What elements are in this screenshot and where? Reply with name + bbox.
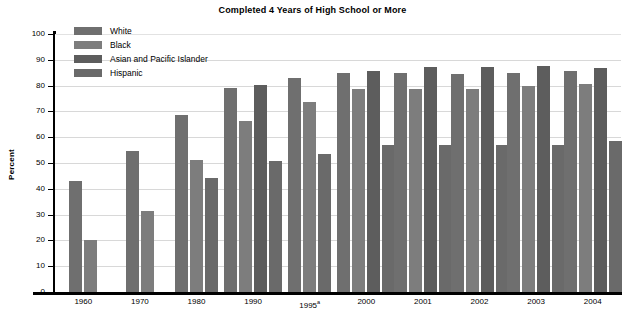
x-tick-label: 2002 (450, 296, 510, 308)
y-tick-label: 90 (36, 56, 45, 64)
bar (579, 84, 592, 292)
y-tick-label: 40 (36, 185, 45, 193)
y-tick-mark (48, 60, 53, 61)
legend-item-white[interactable]: White (74, 24, 304, 38)
y-tick-mark (48, 34, 53, 35)
legend-item-api[interactable]: Asian and Pacific Islander (74, 52, 304, 66)
bar (224, 88, 237, 292)
legend-item-label: White (110, 27, 132, 36)
y-tick-label: 80 (36, 82, 45, 90)
bar (254, 85, 267, 292)
legend-item-black[interactable]: Black (74, 38, 304, 52)
x-tick-label: 2000 (336, 296, 396, 308)
bar (141, 211, 154, 292)
x-tick-label: 1970 (110, 296, 170, 308)
legend-swatch-icon (74, 41, 102, 49)
y-tick-label: 60 (36, 133, 45, 141)
y-tick-mark (48, 189, 53, 190)
bar (303, 102, 316, 292)
bar (84, 240, 97, 292)
bar (481, 67, 494, 292)
legend-item-label: Hispanic (110, 69, 143, 78)
x-axis-line (33, 292, 622, 295)
x-tick-label: 2003 (506, 296, 566, 308)
bar (367, 71, 380, 292)
y-tick-label: 50 (36, 159, 45, 167)
y-tick-mark (48, 215, 53, 216)
x-axis-tick-labels: 19601970198019901995a2000200120022003200… (0, 296, 625, 313)
legend-item-label: Black (110, 41, 131, 50)
bar (466, 89, 479, 292)
bar (594, 68, 607, 292)
bar (564, 71, 577, 292)
y-tick-mark (48, 240, 53, 241)
bar (352, 89, 365, 292)
chart-legend: WhiteBlackAsian and Pacific IslanderHisp… (74, 24, 304, 80)
bar (451, 74, 464, 292)
bar (507, 73, 520, 292)
legend-swatch-icon (74, 27, 102, 35)
y-tick-mark (48, 292, 53, 293)
bar (190, 160, 203, 292)
bar (394, 73, 407, 292)
legend-item-hispanic[interactable]: Hispanic (74, 66, 304, 80)
x-tick-label: 1990 (223, 296, 283, 308)
bar (175, 115, 188, 293)
legend-swatch-icon (74, 55, 102, 63)
x-tick-label: 2004 (563, 296, 623, 308)
x-tick-label: 1980 (167, 296, 227, 308)
bar (239, 121, 252, 292)
chart-container: Completed 4 Years of High School or More… (0, 0, 625, 313)
bar (424, 67, 437, 292)
y-tick-label: 100 (32, 30, 45, 38)
x-tick-label: 2001 (393, 296, 453, 308)
bar (126, 151, 139, 292)
y-tick-label: 30 (36, 211, 45, 219)
y-tick-mark (48, 137, 53, 138)
bar (288, 78, 301, 292)
bar (318, 154, 331, 292)
footnote-marker: a (317, 299, 320, 305)
x-tick-label: 1995a (280, 296, 340, 312)
bar (409, 89, 422, 292)
bar (522, 86, 535, 292)
y-tick-label: 20 (36, 236, 45, 244)
y-tick-mark (48, 86, 53, 87)
bar (609, 141, 622, 292)
bar (269, 161, 282, 292)
bar (205, 178, 218, 292)
chart-title: Completed 4 Years of High School or More (0, 5, 625, 15)
legend-swatch-icon (74, 69, 102, 77)
x-tick-label: 1960 (53, 296, 113, 308)
bar (69, 181, 82, 292)
bar (537, 66, 550, 292)
y-tick-label: 0 (41, 288, 45, 296)
y-tick-mark (48, 111, 53, 112)
y-tick-mark (48, 266, 53, 267)
legend-item-label: Asian and Pacific Islander (110, 55, 208, 64)
y-tick-label: 70 (36, 107, 45, 115)
bar (337, 73, 350, 292)
y-tick-label: 10 (36, 262, 45, 270)
y-tick-mark (48, 163, 53, 164)
y-axis-title: Percent (7, 130, 16, 200)
